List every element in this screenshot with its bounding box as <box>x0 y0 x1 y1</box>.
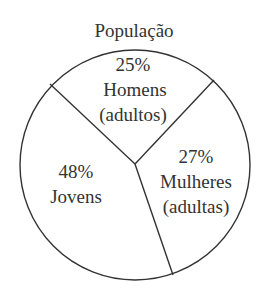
slice-label-mulheres-qualifier: (adultas) <box>163 196 229 218</box>
pie-chart: População 25% Homens (adultos) 27% Mulhe… <box>0 0 262 295</box>
slice-label-homens-qualifier: (adultos) <box>99 104 167 126</box>
slice-label-mulheres-value: 27% <box>179 146 214 167</box>
slice-label-homens-name: Homens <box>103 79 166 100</box>
chart-title: População <box>94 20 173 41</box>
slice-label-jovens-value: 48% <box>59 161 94 182</box>
slice-label-mulheres-name: Mulheres <box>160 171 232 192</box>
slice-label-homens-value: 25% <box>116 54 151 75</box>
slice-label-jovens-name: Jovens <box>50 186 102 207</box>
